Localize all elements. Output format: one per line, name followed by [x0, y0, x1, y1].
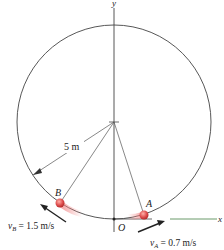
particle-A-label: A [145, 198, 153, 209]
velocity-arrowhead-A [157, 220, 165, 226]
velocity-label-A: vA = 0.7 m/s [150, 238, 197, 249]
origin-point [113, 218, 116, 221]
particle-B [56, 199, 65, 208]
radius-line-A [114, 122, 144, 215]
motion-trail-B [62, 205, 82, 214]
velocity-arrowhead-B [40, 204, 48, 211]
radius-line-B [60, 122, 114, 203]
velocity-arrow-B [44, 207, 66, 222]
circular-track-diagram: y 5 m x O B vB = 1.5 m/s A vA = 0.7 m/s [0, 0, 224, 250]
particle-A [140, 211, 149, 220]
y-axis-label: y [111, 0, 116, 8]
radius-arrowhead [33, 168, 42, 175]
velocity-label-B: vB = 1.5 m/s [8, 221, 55, 232]
origin-label: O [118, 222, 125, 233]
x-axis-label: x [217, 214, 222, 224]
particle-B-label: B [55, 187, 61, 198]
radius-label: 5 m [64, 141, 80, 152]
velocity-arrow-A [138, 223, 160, 232]
